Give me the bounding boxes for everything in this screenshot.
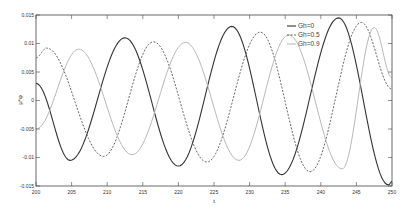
x-tick-label: 235 <box>281 189 290 195</box>
x-tick-label: 225 <box>210 189 219 195</box>
x-tick-label: 215 <box>139 189 148 195</box>
y-tick-label: 0 <box>31 97 34 103</box>
x-tick-label: 205 <box>67 189 76 195</box>
y-tick-label: -0.01 <box>23 154 35 160</box>
y-tick-label: -0.005 <box>20 126 34 132</box>
y-tick-label: 0.01 <box>24 40 34 46</box>
x-axis-label: t <box>213 198 215 204</box>
x-tick-label: 200 <box>32 189 41 195</box>
legend-label: Gh=0.5 <box>298 31 320 38</box>
legend-label: Gh=0.9 <box>298 40 320 47</box>
y-tick-label: 0.015 <box>21 12 34 18</box>
x-tick-label: 220 <box>174 189 183 195</box>
x-tick-label: 250 <box>388 189 397 195</box>
y-tick-label: -0.015 <box>20 183 34 189</box>
plot-background <box>36 15 392 186</box>
x-tick-label: 245 <box>352 189 361 195</box>
line-chart: 200205210215220225230235240245250 -0.015… <box>0 0 413 213</box>
x-tick-label: 230 <box>245 189 254 195</box>
x-tick-label: 240 <box>317 189 326 195</box>
y-axis-label: μ*φ <box>17 95 23 105</box>
legend-label: Gh=0 <box>298 22 314 29</box>
x-tick-label: 210 <box>103 189 112 195</box>
y-tick-label: 0.005 <box>21 69 34 75</box>
